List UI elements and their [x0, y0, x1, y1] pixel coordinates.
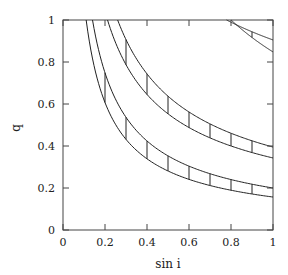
y-tick-label: 0.4	[38, 140, 56, 153]
x-tick-label: 0.6	[180, 236, 198, 249]
chart: 00.20.40.60.8100.20.40.60.81 sin i q	[0, 0, 288, 275]
y-tick-label: 0.2	[38, 182, 56, 195]
curves	[86, 20, 273, 197]
band-low-lower-curve	[86, 20, 273, 197]
band-mid-lower-curve	[108, 20, 273, 158]
band-mid-upper-curve	[118, 20, 273, 147]
band-low	[86, 20, 273, 197]
band-mid	[108, 20, 273, 158]
x-tick-label: 0.2	[96, 236, 114, 249]
x-tick-label: 0.4	[138, 236, 156, 249]
y-axis-label: q	[9, 124, 23, 132]
y-tick-label: 0.8	[38, 56, 56, 69]
x-axis-label: sin i	[155, 257, 181, 271]
y-tick-label: 0.6	[38, 98, 56, 111]
plot-border	[63, 20, 273, 230]
x-tick-label: 0	[60, 236, 67, 249]
y-tick-label: 1	[48, 14, 55, 27]
band-high-upper-curve	[227, 20, 273, 40]
x-tick-label: 1	[270, 236, 277, 249]
y-tick-label: 0	[48, 224, 55, 237]
plot-frame	[63, 20, 273, 230]
band-low-upper-curve	[93, 20, 274, 188]
band-high	[227, 20, 273, 52]
x-tick-label: 0.8	[222, 236, 240, 249]
ticks: 00.20.40.60.8100.20.40.60.81	[38, 14, 277, 249]
